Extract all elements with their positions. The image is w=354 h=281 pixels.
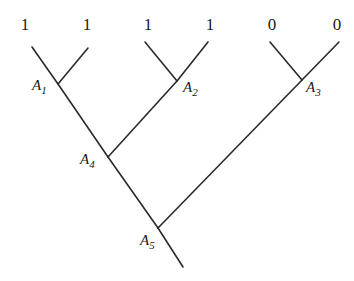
- node-subscript: 3: [314, 86, 321, 98]
- node-subscript: 4: [89, 158, 95, 170]
- node-label: A4: [79, 151, 95, 170]
- leaf-value: 1: [206, 15, 215, 34]
- leaf-value: 0: [333, 15, 342, 34]
- tree-edge: [108, 157, 158, 228]
- node-subscript: 1: [41, 84, 47, 96]
- tree-edge: [108, 81, 177, 157]
- tree-edge: [145, 42, 177, 81]
- leaf-value: 1: [21, 15, 30, 34]
- tree-edge: [158, 80, 302, 228]
- tree-edge: [270, 42, 302, 80]
- tree-edge: [58, 84, 108, 157]
- node-label: A1: [31, 77, 47, 96]
- node-label: A3: [305, 79, 321, 98]
- leaf-value: 1: [83, 15, 92, 34]
- leaf-value: 1: [144, 15, 153, 34]
- tree-edge: [177, 42, 208, 81]
- node-subscript: 5: [149, 239, 155, 251]
- node-label: A5: [139, 232, 155, 251]
- leaf-value: 0: [268, 15, 277, 34]
- tree-edges: [32, 42, 339, 267]
- tree-edge: [158, 228, 183, 267]
- tree-edge: [302, 42, 339, 80]
- leaf-values: 111100: [21, 15, 342, 34]
- node-labels: A1A2A3A4A5: [31, 77, 321, 251]
- node-label: A2: [182, 79, 198, 98]
- node-subscript: 2: [192, 86, 198, 98]
- tree-diagram: 111100 A1A2A3A4A5: [0, 0, 354, 281]
- tree-edge: [58, 48, 88, 84]
